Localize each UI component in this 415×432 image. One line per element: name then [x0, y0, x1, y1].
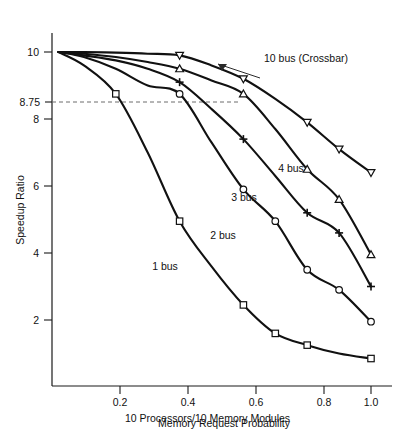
data-point-marker-triangle-down: [367, 170, 375, 177]
y-tick-marks: [44, 52, 52, 320]
x-tick-label-0-2: 0.2: [113, 396, 128, 408]
series-curves-group: [58, 52, 371, 359]
series-label-2-bus: 2 bus: [210, 229, 236, 241]
x-tick-labels: 0.2 0.4 0.6 0.8 1.0: [113, 396, 379, 408]
series-markers-group: [113, 52, 375, 361]
y-tick-label-4: 4: [33, 247, 39, 259]
x-tick-marks: [120, 386, 371, 394]
data-point-marker-square: [113, 91, 119, 97]
series-label-1-bus: 1 bus: [152, 260, 178, 272]
data-point-marker-plus: [367, 283, 375, 291]
y-tick-label-2: 2: [33, 314, 39, 326]
series-label-4-bus: 4 bus: [278, 162, 304, 174]
axis-group: [52, 33, 392, 386]
x-tick-label-0-8: 0.8: [317, 396, 332, 408]
data-point-marker-circle: [272, 218, 279, 225]
data-point-marker-square: [304, 342, 310, 348]
y-tick-label-8-75: 8.75: [20, 96, 41, 108]
y-axis-title: Speedup Ratio: [14, 175, 26, 245]
x-tick-label-0-6: 0.6: [249, 396, 264, 408]
series-curve-3-bus: [58, 52, 371, 287]
y-tick-label-6: 6: [33, 180, 39, 192]
x-tick-label-0-4: 0.4: [181, 396, 196, 408]
data-point-marker-square: [368, 355, 374, 361]
data-point-marker-circle: [368, 318, 375, 325]
data-point-marker-square: [272, 330, 278, 336]
series-curve-2-bus: [58, 52, 371, 322]
data-point-marker-square: [240, 302, 246, 308]
series-label-crossbar: 10 bus (Crossbar): [264, 52, 348, 64]
chart-figure: 10 8.75 8 6 4 2 0.2 0.4 0.6 0.8 1.0: [0, 0, 415, 432]
data-point-marker-square: [176, 218, 182, 224]
data-point-marker-circle: [176, 91, 183, 98]
data-point-marker-circle: [304, 266, 311, 273]
figure-caption: 10 Processors/10 Memory Modules: [0, 412, 415, 424]
speedup-ratio-line-chart: 10 8.75 8 6 4 2 0.2 0.4 0.6 0.8 1.0: [0, 0, 415, 432]
y-tick-label-10: 10: [27, 46, 39, 58]
series-curve-1-bus: [58, 52, 371, 359]
data-point-marker-circle: [336, 287, 343, 294]
y-tick-label-8: 8: [33, 113, 39, 125]
crossbar-callout-group: 10 bus (Crossbar): [218, 52, 348, 78]
x-tick-label-1-0: 1.0: [364, 396, 379, 408]
series-label-3-bus: 3 bus: [231, 191, 257, 203]
